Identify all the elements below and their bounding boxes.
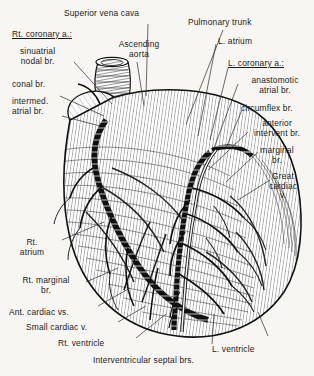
label-right-marginal-branch: Rt. marginal br. [8, 276, 84, 295]
label-marginal-branch: marginal br. [252, 146, 302, 165]
label-sinuatrial-nodal-branch: sinuatrial nodal br. [20, 47, 55, 66]
heart-anatomy-figure: Superior vena cava Rt. coronary a.: sinu… [0, 0, 314, 376]
label-anastomotic-atrial-branch: anastomotic atrial br. [240, 76, 310, 95]
label-ascending-aorta: Ascending aorta [110, 40, 168, 59]
label-left-coronary-artery-heading: L. coronary a.: [228, 59, 284, 69]
label-intermediate-atrial-branch: intermed. atrial br. [12, 97, 48, 116]
label-left-ventricle: L. ventricle [212, 345, 255, 355]
label-left-atrium: L. atrium [218, 37, 252, 47]
label-right-atrium: Rt. atrium [10, 238, 54, 257]
label-right-ventricle: Rt. ventricle [58, 339, 104, 349]
label-anterior-cardiac-veins: Ant. cardiac vs. [9, 308, 69, 318]
label-small-cardiac-vein: Small cardiac v. [26, 323, 87, 333]
label-anterior-interventricular-branch: anterior intervent br. [241, 119, 313, 138]
label-great-cardiac-vein: Great cardiac v. [258, 172, 308, 201]
label-pulmonary-trunk: Pulmonary trunk [188, 18, 252, 28]
label-interventricular-septal-branches: Interventricular septal brs. [93, 356, 194, 366]
label-conal-branch: conal br. [12, 80, 45, 90]
artist-credit: — · · — [196, 318, 206, 321]
label-circumflex-branch: circumflex br. [241, 104, 293, 114]
label-superior-vena-cava: Superior vena cava [64, 9, 139, 19]
label-rt-coronary-artery-heading: Rt. coronary a.: [12, 30, 72, 40]
